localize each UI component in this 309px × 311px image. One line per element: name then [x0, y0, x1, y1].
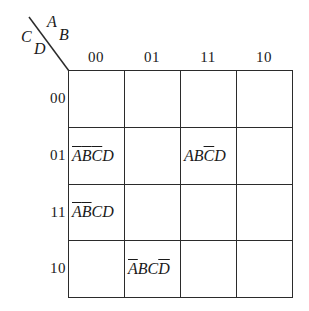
kmap-cell-r3c1[interactable]: ABCD: [125, 241, 181, 298]
kmap-cell-r1c1[interactable]: [125, 128, 181, 185]
column-header-3: 10: [236, 47, 292, 67]
kmap-cell-r1c3[interactable]: [237, 128, 293, 185]
kmap-cell-r0c1[interactable]: [125, 71, 181, 128]
kmap-cell-r0c2[interactable]: [181, 71, 237, 128]
row-header-0: 00: [24, 70, 66, 127]
column-variable-b-label: B: [59, 27, 69, 43]
kmap-cell-r1c2[interactable]: ABCD: [181, 128, 237, 185]
kmap-cell-r2c0[interactable]: ABCD: [69, 185, 125, 242]
kmap-cell-r3c2[interactable]: [181, 241, 237, 298]
row-variable-c-label: C: [21, 29, 32, 45]
row-header-2: 11: [24, 184, 66, 241]
column-variable-a-label: A: [47, 14, 57, 30]
kmap-minterm-label: ABCD: [69, 203, 114, 221]
kmap-cell-r3c3[interactable]: [237, 241, 293, 298]
row-header-3: 10: [24, 240, 66, 297]
row-header-1: 01: [24, 127, 66, 184]
kmap-grid: ABCD ABCD ABCD ABCD: [68, 70, 293, 298]
kmap-cell-r3c0[interactable]: [69, 241, 125, 298]
kmap-minterm-label: ABCD: [181, 147, 226, 165]
kmap-minterm-label: ABCD: [125, 260, 170, 278]
karnaugh-map-figure: A B C D 00 01 11 10 00 01 11 10 ABCD ABC…: [0, 0, 309, 311]
kmap-minterm-label: ABCD: [69, 147, 114, 165]
kmap-cell-r2c1[interactable]: [125, 185, 181, 242]
kmap-cell-r1c0[interactable]: ABCD: [69, 128, 125, 185]
column-header-2: 11: [180, 47, 236, 67]
kmap-cell-r2c3[interactable]: [237, 185, 293, 242]
kmap-cell-r2c2[interactable]: [181, 185, 237, 242]
row-variable-d-label: D: [34, 41, 46, 57]
kmap-cell-r0c3[interactable]: [237, 71, 293, 128]
column-header-1: 01: [124, 47, 180, 67]
kmap-cell-r0c0[interactable]: [69, 71, 125, 128]
column-header-0: 00: [68, 47, 124, 67]
